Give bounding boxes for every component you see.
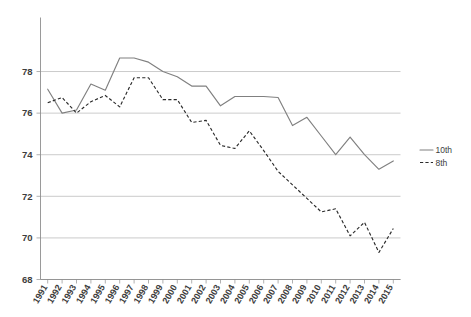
x-tick-labels: 1991199219931994199519961997199819992000… (31, 283, 395, 305)
series-line-10th (48, 58, 394, 169)
x-axis (41, 280, 401, 284)
y-tick-label: 70 (22, 232, 33, 243)
chart-canvas: 687072747678 199119921993199419951996199… (0, 0, 471, 317)
y-tick-label: 78 (22, 66, 33, 77)
x-tick-label: 2010 (304, 283, 323, 305)
y-tick-label: 74 (22, 149, 33, 160)
x-tick-label: 2015 (376, 283, 395, 305)
legend-label-8th: 8th (436, 158, 448, 168)
series-line-8th (48, 78, 394, 253)
y-tick-labels: 687072747678 (22, 66, 33, 285)
y-tick-label: 68 (22, 274, 33, 285)
data-series (48, 58, 394, 252)
chart-legend: 10th8th (420, 145, 452, 168)
y-axis (37, 18, 41, 280)
y-tick-label: 72 (22, 191, 33, 202)
line-chart: 687072747678 199119921993199419951996199… (0, 0, 471, 317)
y-tick-label: 76 (22, 107, 33, 118)
legend-label-10th: 10th (436, 145, 453, 155)
gridlines (41, 72, 401, 280)
